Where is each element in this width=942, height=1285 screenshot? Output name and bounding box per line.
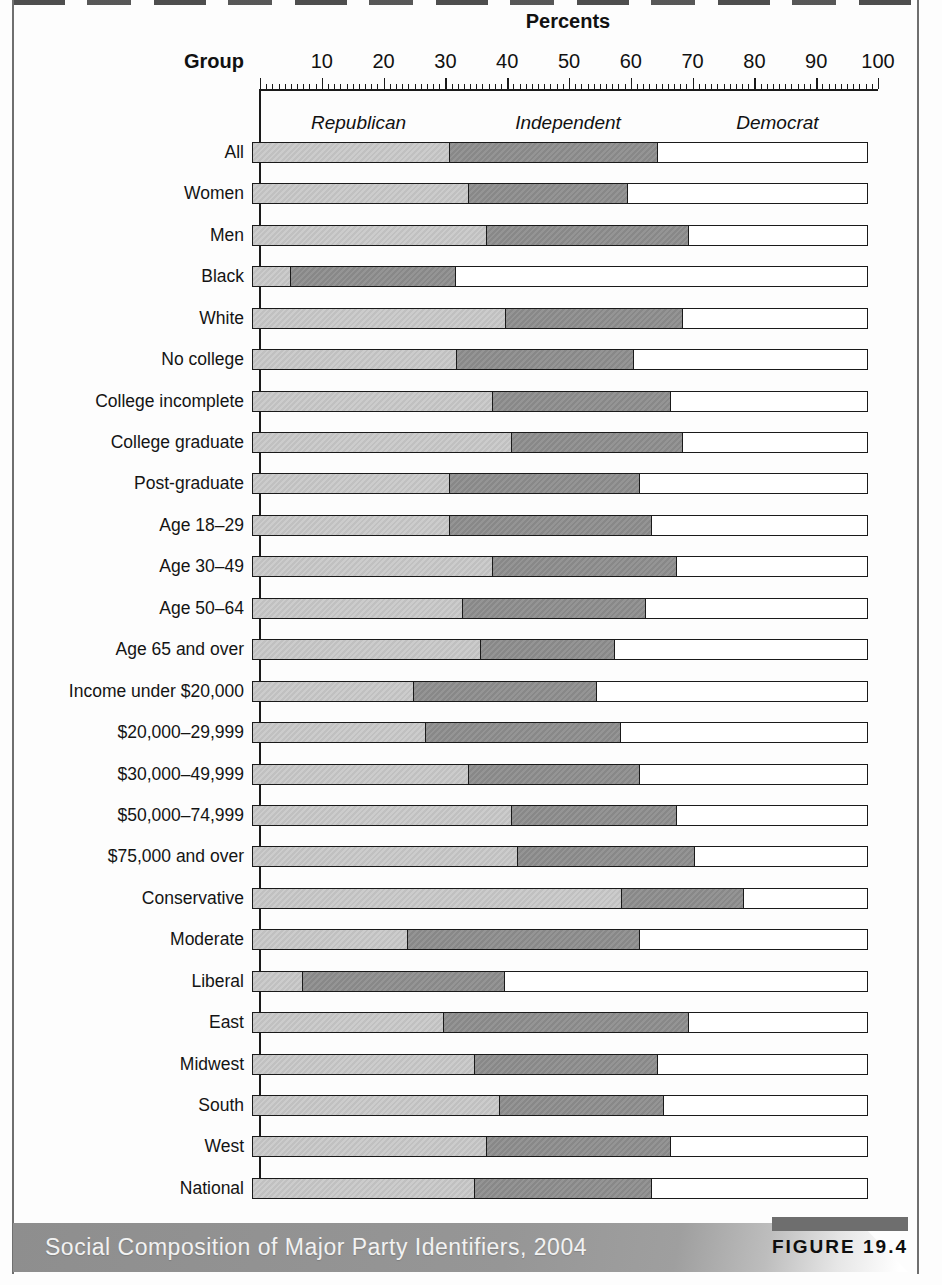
- segment-independent: [449, 516, 652, 535]
- row-label: Black: [0, 266, 252, 287]
- segment-independent: [407, 930, 640, 949]
- axis-tick: [699, 84, 700, 89]
- axis-tick: [656, 84, 657, 89]
- stacked-bar: [252, 515, 868, 536]
- chart-row: Black: [0, 246, 876, 287]
- segment-democrat: [677, 557, 867, 576]
- axis-tick: [353, 84, 354, 89]
- axis-tick: [612, 84, 613, 89]
- segment-democrat: [658, 1055, 867, 1074]
- row-label: Moderate: [0, 929, 252, 950]
- row-label: $20,000–29,999: [0, 722, 252, 743]
- stacked-bar: [252, 1136, 868, 1157]
- axis-tick: [359, 84, 360, 89]
- segment-independent: [511, 806, 677, 825]
- axis-ruler: 102030405060708090100: [260, 78, 878, 91]
- segment-republican: [253, 847, 517, 866]
- segment-independent: [474, 1179, 652, 1198]
- segment-republican: [253, 557, 492, 576]
- row-label: College graduate: [0, 432, 252, 453]
- row-label: Age 65 and over: [0, 639, 252, 660]
- axis-tick: [266, 84, 267, 89]
- axis-tick: [847, 84, 848, 89]
- axis-tick: [272, 84, 273, 89]
- segment-democrat: [628, 184, 867, 203]
- chart-row: College graduate: [0, 412, 876, 453]
- axis-tick: [513, 84, 514, 89]
- segment-independent: [290, 267, 456, 286]
- axis-tick: [458, 84, 459, 89]
- row-label: Midwest: [0, 1054, 252, 1075]
- axis-tick: [328, 84, 329, 89]
- segment-democrat: [658, 143, 867, 162]
- segment-democrat: [664, 1096, 867, 1115]
- segment-republican: [253, 930, 407, 949]
- segment-independent: [486, 1137, 670, 1156]
- segment-republican: [253, 474, 449, 493]
- row-label: Men: [0, 225, 252, 246]
- axis-tick: [736, 84, 737, 89]
- stacked-bar: [252, 639, 868, 660]
- segment-republican: [253, 143, 449, 162]
- segment-independent: [449, 143, 658, 162]
- segment-independent: [462, 599, 646, 618]
- stacked-bar: [252, 266, 868, 287]
- segment-republican: [253, 1096, 499, 1115]
- segment-republican: [253, 350, 456, 369]
- axis-tick: [761, 84, 762, 89]
- axis-tick: [798, 84, 799, 89]
- axis-tick: [439, 84, 440, 89]
- axis-tick: [686, 84, 687, 89]
- axis-tick-label: 50: [558, 50, 580, 73]
- stacked-bar: [252, 846, 868, 867]
- chart-row: Age 50–64: [0, 577, 876, 618]
- segment-republican: [253, 226, 486, 245]
- row-label: Post-graduate: [0, 473, 252, 494]
- axis-tick: [285, 84, 286, 89]
- axis-tick: [804, 84, 805, 89]
- axis-tick: [347, 84, 348, 89]
- chart-row: White: [0, 287, 876, 328]
- chart-rows: AllWomenMenBlackWhiteNo collegeCollege i…: [0, 122, 876, 1199]
- stacked-bar: [252, 971, 868, 992]
- axis-tick: [507, 78, 508, 89]
- chart-row: Midwest: [0, 1033, 876, 1074]
- axis-tick-label: 30: [434, 50, 456, 73]
- segment-independent: [492, 392, 670, 411]
- axis-tick: [377, 84, 378, 89]
- row-label: No college: [0, 349, 252, 370]
- segment-independent: [443, 1013, 689, 1032]
- segment-democrat: [671, 392, 868, 411]
- group-column-label: Group: [0, 50, 244, 73]
- row-label: Women: [0, 183, 252, 204]
- segment-independent: [468, 765, 640, 784]
- axis-tick: [594, 84, 595, 89]
- axis-tick: [470, 84, 471, 89]
- axis-tick: [859, 84, 860, 89]
- axis-tick: [316, 84, 317, 89]
- segment-democrat: [621, 723, 867, 742]
- chart-row: College incomplete: [0, 370, 876, 411]
- segment-independent: [499, 1096, 665, 1115]
- segment-independent: [474, 1055, 658, 1074]
- axis-tick: [810, 84, 811, 89]
- axis-tick: [415, 84, 416, 89]
- segment-republican: [253, 433, 511, 452]
- segment-republican: [253, 640, 480, 659]
- axis-tick: [878, 78, 879, 89]
- segment-independent: [468, 184, 628, 203]
- axis-tick: [464, 84, 465, 89]
- axis-tick-label: 10: [311, 50, 333, 73]
- axis-tick: [773, 84, 774, 89]
- axis-tick: [662, 84, 663, 89]
- segment-republican: [253, 806, 511, 825]
- stacked-bar: [252, 888, 868, 909]
- figure-page: Percents Group 102030405060708090100 Rep…: [0, 0, 942, 1285]
- segment-democrat: [646, 599, 867, 618]
- chart-row: Liberal: [0, 950, 876, 991]
- axis-tick: [643, 84, 644, 89]
- segment-independent: [492, 557, 676, 576]
- stacked-bar: [252, 183, 868, 204]
- segment-democrat: [505, 972, 867, 991]
- stacked-bar: [252, 432, 868, 453]
